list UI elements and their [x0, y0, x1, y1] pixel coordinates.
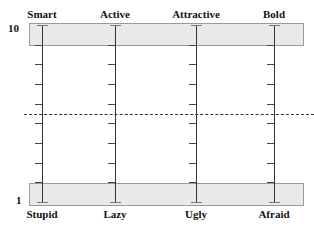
axis-tick	[267, 182, 274, 183]
axis-tick	[35, 84, 42, 85]
axis-tick	[35, 163, 42, 164]
axis-tick	[108, 64, 115, 65]
axis-top-label: Bold	[263, 8, 285, 20]
axis-tick	[189, 123, 196, 124]
axis-line	[42, 25, 43, 203]
axis-tick	[191, 25, 202, 26]
axis-tick	[110, 202, 121, 203]
axis-tick	[108, 45, 115, 46]
axis-tick	[35, 123, 42, 124]
axis-bottom-label: Ugly	[185, 208, 207, 220]
axis-tick	[191, 202, 202, 203]
axis-line	[196, 25, 197, 203]
axis-bottom-label: Lazy	[103, 208, 126, 220]
axis-tick	[189, 182, 196, 183]
axis-tick	[189, 163, 196, 164]
axis-tick	[35, 104, 42, 105]
axis-tick	[35, 143, 42, 144]
axis-tick	[110, 25, 121, 26]
scale-max-label: 10	[8, 22, 19, 34]
axis-top-label: Active	[100, 8, 130, 20]
axis-line	[274, 25, 275, 203]
axis-line	[115, 25, 116, 203]
axis-top-label: Smart	[27, 8, 56, 20]
axis-tick	[267, 104, 274, 105]
axis-tick	[108, 104, 115, 105]
axis-tick	[37, 25, 48, 26]
bottom-band	[29, 183, 304, 206]
axis-tick	[108, 143, 115, 144]
axis-tick	[267, 143, 274, 144]
axis-tick	[189, 104, 196, 105]
axis-tick	[267, 45, 274, 46]
axis-tick	[267, 64, 274, 65]
axis-top-label: Attractive	[172, 8, 220, 20]
axis-tick	[108, 163, 115, 164]
axis-tick	[108, 123, 115, 124]
axis-tick	[269, 202, 280, 203]
midline-dashed	[24, 114, 314, 115]
axis-tick	[35, 182, 42, 183]
axis-tick	[269, 25, 280, 26]
axis-bottom-label: Afraid	[258, 208, 289, 220]
axis-bottom-label: Stupid	[26, 208, 57, 220]
axis-tick	[37, 202, 48, 203]
axis-tick	[267, 84, 274, 85]
axis-tick	[267, 163, 274, 164]
axis-tick	[108, 182, 115, 183]
axis-tick	[35, 45, 42, 46]
axis-tick	[267, 123, 274, 124]
axis-tick	[189, 45, 196, 46]
top-band	[29, 23, 304, 46]
axis-tick	[35, 64, 42, 65]
axis-tick	[189, 143, 196, 144]
scale-min-label: 1	[16, 194, 22, 206]
axis-tick	[189, 84, 196, 85]
axis-tick	[108, 84, 115, 85]
axis-tick	[189, 64, 196, 65]
